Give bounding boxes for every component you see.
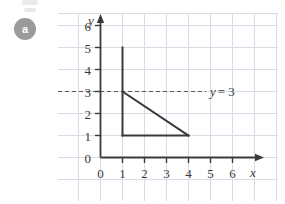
y-tick-label-5: 5 xyxy=(85,41,92,56)
x-axis-arrowhead xyxy=(255,154,264,161)
x-axis-label: x xyxy=(249,165,256,180)
page-root: a xyxy=(0,0,285,204)
y-axis-arrowhead xyxy=(97,14,104,23)
graph-panel: 0 1 2 3 4 5 6 0 1 2 3 4 5 6 y x xyxy=(58,13,278,201)
page-top-artifact xyxy=(22,0,38,5)
x-tick-label-5: 5 xyxy=(207,166,214,181)
line-equation-label: y= 3 xyxy=(208,84,235,99)
y-tick-label-4: 4 xyxy=(85,63,92,78)
x-tick-label-1: 1 xyxy=(119,166,126,181)
x-tick-label-3: 3 xyxy=(163,166,170,181)
y-tick-label-2: 2 xyxy=(85,107,92,122)
x-tick-label-2: 2 xyxy=(141,166,148,181)
coordinate-graph: 0 1 2 3 4 5 6 0 1 2 3 4 5 6 y x xyxy=(58,13,278,201)
line-equation-variable: y xyxy=(208,84,216,99)
x-tick-label-6: 6 xyxy=(229,166,236,181)
y-tick-label-3: 3 xyxy=(85,85,92,100)
line-equation-rest: = 3 xyxy=(218,84,235,99)
y-tick-label-0: 0 xyxy=(85,151,92,166)
x-tick-label-4: 4 xyxy=(185,166,192,181)
page-top-artifact-secondary xyxy=(24,8,36,12)
y-axis-label: y xyxy=(86,13,94,28)
part-label-badge: a xyxy=(14,18,36,40)
y-tick-label-1: 1 xyxy=(85,129,92,144)
x-tick-labels: 0 1 2 3 4 5 6 xyxy=(97,166,236,181)
y-tick-labels: 0 1 2 3 4 5 6 xyxy=(85,19,92,166)
x-tick-label-0: 0 xyxy=(97,166,104,181)
